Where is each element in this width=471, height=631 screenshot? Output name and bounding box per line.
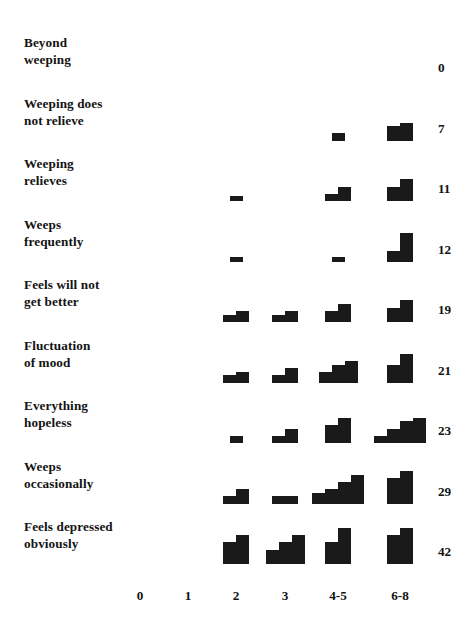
row-plot-area bbox=[0, 141, 471, 201]
chart-cell bbox=[325, 145, 351, 201]
chart-subbar bbox=[312, 493, 325, 504]
chart-subbar bbox=[338, 187, 351, 201]
chart-subbar bbox=[236, 489, 249, 503]
row-total: 23 bbox=[438, 423, 464, 439]
chart-cell bbox=[387, 448, 413, 504]
chart-cell bbox=[272, 448, 298, 504]
chart-subbar bbox=[338, 304, 351, 322]
chart-cell bbox=[387, 206, 413, 262]
chart-row: Everything hopeless23 bbox=[0, 383, 471, 443]
chart-subbar bbox=[279, 542, 292, 564]
chart-subbar bbox=[413, 418, 426, 443]
chart-subbar bbox=[236, 535, 249, 564]
chart-subbar bbox=[285, 496, 298, 503]
row-plot-area bbox=[0, 81, 471, 141]
chart-subbar bbox=[230, 257, 243, 262]
chart-row: Weeping relieves11 bbox=[0, 141, 471, 201]
chart-cell bbox=[387, 508, 413, 564]
chart-subbar bbox=[325, 489, 338, 503]
chart-subbar bbox=[387, 251, 400, 262]
chart-subbar bbox=[332, 257, 345, 262]
chart-subbar bbox=[332, 133, 345, 140]
chart-cell bbox=[230, 145, 243, 201]
chart-row: Beyond weeping0 bbox=[0, 20, 471, 80]
chart-subbar bbox=[223, 496, 236, 503]
row-total: 29 bbox=[438, 484, 464, 500]
chart-subbar bbox=[400, 421, 413, 443]
chart-cell bbox=[387, 266, 413, 322]
chart-row: Weeps frequently12 bbox=[0, 202, 471, 262]
chart-cell bbox=[272, 266, 298, 322]
chart-subbar bbox=[285, 368, 298, 382]
chart-subbar bbox=[387, 308, 400, 322]
chart-cell bbox=[230, 206, 243, 262]
row-total: 7 bbox=[438, 121, 464, 137]
row-total: 42 bbox=[438, 544, 464, 560]
chart-subbar bbox=[387, 429, 400, 443]
row-plot-area bbox=[0, 202, 471, 262]
chart-subbar bbox=[272, 436, 285, 443]
row-plot-area bbox=[0, 262, 471, 322]
chart-subbar bbox=[400, 233, 413, 262]
x-axis-tick-label: 2 bbox=[233, 588, 240, 604]
chart-subbar bbox=[400, 179, 413, 201]
chart-subbar bbox=[292, 535, 305, 564]
scalogram-chart: Beyond weeping0Weeping does not relieve7… bbox=[0, 0, 471, 631]
chart-row: Feels will not get better19 bbox=[0, 262, 471, 322]
chart-cell bbox=[325, 508, 351, 564]
x-axis-tick-label: 1 bbox=[185, 588, 192, 604]
chart-subbar bbox=[325, 194, 338, 201]
chart-subbar bbox=[223, 315, 236, 322]
row-total: 21 bbox=[438, 363, 464, 379]
row-total: 19 bbox=[438, 302, 464, 318]
chart-cell bbox=[387, 145, 413, 201]
chart-cell bbox=[230, 387, 243, 443]
chart-subbar bbox=[285, 311, 298, 322]
chart-cell bbox=[387, 85, 413, 141]
chart-subbar bbox=[319, 372, 332, 383]
chart-subbar bbox=[400, 354, 413, 383]
chart-subbar bbox=[387, 187, 400, 201]
chart-row: Fluctuation of mood21 bbox=[0, 323, 471, 383]
chart-subbar bbox=[400, 300, 413, 322]
row-plot-area bbox=[0, 323, 471, 383]
chart-cell bbox=[266, 508, 305, 564]
chart-row: Weeping does not relieve7 bbox=[0, 81, 471, 141]
chart-cell bbox=[374, 387, 426, 443]
row-plot-area bbox=[0, 383, 471, 443]
chart-subbar bbox=[387, 478, 400, 503]
chart-subbar bbox=[400, 123, 413, 141]
chart-cell bbox=[332, 206, 345, 262]
chart-subbar bbox=[338, 482, 351, 504]
chart-subbar bbox=[400, 528, 413, 564]
row-total: 12 bbox=[438, 242, 464, 258]
row-plot-area bbox=[0, 504, 471, 564]
chart-cell bbox=[223, 327, 249, 383]
chart-subbar bbox=[325, 311, 338, 322]
chart-cell bbox=[325, 387, 351, 443]
row-total: 11 bbox=[438, 181, 464, 197]
row-plot-area bbox=[0, 20, 471, 80]
x-axis-tick-label: 3 bbox=[282, 588, 289, 604]
chart-subbar bbox=[236, 372, 249, 383]
chart-subbar bbox=[230, 196, 243, 201]
chart-subbar bbox=[345, 361, 358, 383]
chart-subbar bbox=[325, 425, 338, 443]
chart-subbar bbox=[387, 365, 400, 383]
x-axis-tick-label: 4-5 bbox=[329, 588, 347, 604]
chart-subbar bbox=[223, 375, 236, 382]
chart-cell bbox=[312, 448, 364, 504]
chart-cell bbox=[387, 327, 413, 383]
chart-subbar bbox=[338, 418, 351, 443]
chart-subbar bbox=[236, 311, 249, 322]
chart-subbar bbox=[387, 535, 400, 564]
chart-subbar bbox=[223, 542, 236, 564]
chart-subbar bbox=[272, 496, 285, 503]
chart-cell bbox=[332, 85, 345, 141]
chart-cell bbox=[223, 508, 249, 564]
chart-cell bbox=[319, 327, 358, 383]
chart-subbar bbox=[374, 436, 387, 443]
x-axis-tick-label: 0 bbox=[137, 588, 144, 604]
chart-subbar bbox=[400, 471, 413, 503]
chart-subbar bbox=[272, 315, 285, 322]
